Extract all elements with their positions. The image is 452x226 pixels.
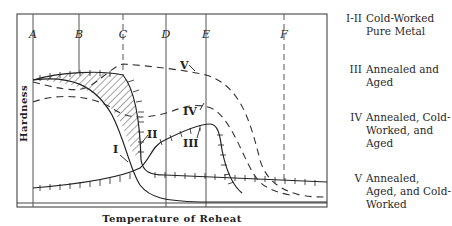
label-curve-v: V [179, 59, 189, 72]
legend-text: Annealed, Aged, and Cold-Worked [366, 172, 452, 211]
label-curve-ii: II [147, 128, 157, 141]
label-a: A [28, 28, 37, 41]
label-b: B [74, 28, 83, 41]
arrow-iii [197, 128, 200, 138]
x-axis-title: Temperature of Reheat [102, 213, 242, 224]
arrow-v [189, 65, 195, 71]
label-d: D [161, 28, 171, 41]
legend-key: IV [334, 111, 362, 124]
plot-frame [17, 14, 327, 207]
arrow-iv [200, 103, 204, 110]
label-f: F [279, 28, 288, 41]
label-curve-i: I [113, 143, 118, 156]
arrow-i [120, 155, 128, 162]
curve-ii [33, 72, 327, 182]
curve-iv [33, 96, 290, 195]
legend-text: Annealed and Aged [366, 63, 452, 89]
label-c: C [119, 28, 128, 41]
label-curve-iv: IV [183, 105, 197, 118]
label-e: E [201, 28, 210, 41]
legend-key: I-II [334, 12, 362, 25]
column-labels: A B C D E F [28, 28, 288, 41]
legend-key: III [334, 63, 362, 76]
label-curve-iii: III [183, 137, 198, 150]
legend-text: Annealed, Cold-Worked, and Aged [366, 111, 452, 150]
y-axis-title: Hardness [18, 85, 29, 142]
legend-key: V [334, 172, 362, 185]
legend-text: Cold-Worked Pure Metal [366, 12, 452, 38]
